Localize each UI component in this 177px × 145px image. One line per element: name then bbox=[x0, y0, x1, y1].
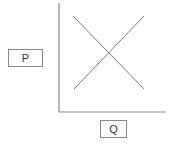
x-axis-label: Q bbox=[109, 123, 118, 135]
y-axis-label: P bbox=[22, 52, 29, 64]
supply-demand-diagram bbox=[0, 0, 177, 145]
y-axis-label-box: P bbox=[8, 49, 43, 67]
x-axis-label-box: Q bbox=[100, 120, 127, 138]
